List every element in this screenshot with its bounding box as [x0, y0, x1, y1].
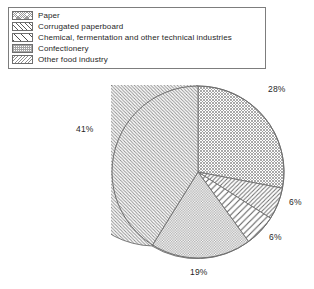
legend-label-chemical: Chemical, fermentation and other technic… — [38, 33, 232, 42]
legend-item-other-food-industry: Other food industry — [12, 54, 262, 65]
pie-label-chemical: 6% — [269, 232, 282, 242]
legend-label-corrugated-paperboard: Corrugated paperboard — [38, 22, 123, 31]
legend-label-other-food-industry: Other food industry — [38, 55, 108, 64]
legend-swatch-other-food-industry — [12, 55, 33, 64]
pie-label-confectionery: 19% — [190, 267, 208, 277]
pie-chart-figure: Paper Corrugated paperboard Chemical, fe… — [0, 0, 314, 289]
legend-item-chemical: Chemical, fermentation and other technic… — [12, 32, 262, 43]
legend-swatch-paper — [12, 11, 33, 20]
legend-swatch-confectionery — [12, 44, 33, 53]
legend-item-corrugated-paperboard: Corrugated paperboard — [12, 21, 262, 32]
pie-graphic — [111, 85, 285, 259]
legend-swatch-chemical — [12, 33, 33, 42]
legend-item-confectionery: Confectionery — [12, 43, 262, 54]
pie-slice-paper — [198, 86, 284, 188]
legend-item-paper: Paper — [12, 10, 262, 21]
legend-swatch-corrugated-paperboard — [12, 22, 33, 31]
pie-label-other-food-industry: 41% — [76, 124, 94, 134]
chart-legend: Paper Corrugated paperboard Chemical, fe… — [8, 7, 266, 69]
legend-label-paper: Paper — [38, 11, 60, 20]
pie-svg — [111, 85, 285, 259]
legend-label-confectionery: Confectionery — [38, 44, 89, 53]
pie-label-paper: 28% — [268, 84, 286, 94]
pie-label-corrugated-paperboard: 6% — [289, 197, 302, 207]
